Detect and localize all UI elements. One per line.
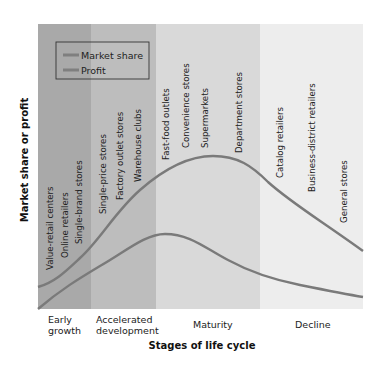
store-label: Fast-food outlets [161, 88, 171, 160]
legend-label-profit: Profit [81, 65, 106, 76]
y-axis-label: Market share or profit [19, 98, 30, 223]
store-label: Online retailers [60, 192, 70, 258]
store-label: Supermarkets [200, 87, 210, 148]
stage-labels: Early growth Accelerated development Mat… [48, 314, 331, 336]
stage-label-maturity: Maturity [193, 319, 233, 330]
retail-life-cycle-diagram: Market share Profit Value-retail centers… [0, 0, 381, 368]
stage-label-accelerated-line2: development [96, 325, 159, 336]
store-label: Single-price stores [98, 134, 108, 214]
stage-label-early-growth-line1: Early [48, 314, 72, 325]
store-label: Convenience stores [181, 63, 191, 148]
x-axis-label: Stages of life cycle [149, 340, 256, 351]
store-label: Catalog retailers [275, 106, 285, 178]
store-label: Business-district retailers [307, 83, 317, 192]
store-label: Factory outlet stores [115, 111, 125, 200]
store-label: Department stores [234, 72, 244, 153]
legend-label-market-share: Market share [81, 50, 143, 61]
stage-label-accelerated-line1: Accelerated [96, 314, 152, 325]
store-label: Warehouse clubs [133, 108, 143, 182]
store-label: Single-brand stores [74, 160, 84, 244]
stage-label-decline: Decline [295, 319, 331, 330]
stage-label-early-growth-line2: growth [48, 325, 81, 336]
store-label: Value-retail centers [45, 186, 55, 270]
store-label: General stores [339, 160, 349, 223]
